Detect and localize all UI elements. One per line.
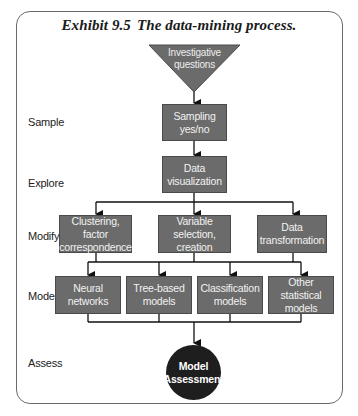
variable-selection-box: Variableselection, creation — [158, 215, 231, 253]
classification-line2: models — [200, 295, 259, 308]
visualization-line2: visualization — [167, 175, 222, 188]
tree-line1: Tree-based — [133, 282, 184, 295]
visualization-line1: Data — [167, 162, 222, 175]
transformation-line1: Data — [260, 221, 324, 234]
tree-based-models-box: Tree-basedmodels — [126, 276, 192, 314]
clustering-line2: correspondence — [59, 241, 132, 254]
start-line2: questions — [149, 59, 240, 71]
other-statistical-models-box: Other statisticalmodels — [268, 276, 334, 314]
variable-line1: Variable — [159, 215, 230, 228]
sampling-line2: yes/no — [173, 123, 215, 136]
clustering-line1: Clustering, factor — [59, 215, 132, 241]
tree-line2: models — [133, 295, 184, 308]
other-line2: models — [269, 302, 333, 315]
assessment-line1: Model — [164, 360, 224, 373]
stage-assess: Assess — [28, 357, 62, 369]
transformation-line2: transformation — [260, 234, 324, 247]
neural-networks-box: Neuralnetworks — [55, 276, 121, 314]
assessment-line2: Assessment — [164, 373, 224, 386]
variable-line2: selection, creation — [159, 228, 230, 254]
stage-model: Model — [28, 290, 57, 302]
sampling-box: Samplingyes/no — [162, 104, 227, 141]
data-transformation-box: Datatransformation — [257, 215, 327, 253]
neural-line1: Neural — [68, 282, 108, 295]
classification-line1: Classification — [200, 282, 259, 295]
sampling-line1: Sampling — [173, 110, 215, 123]
stage-sample: Sample — [28, 116, 64, 128]
start-line1: Investigative — [149, 47, 240, 59]
clustering-box: Clustering, factorcorrespondence — [59, 215, 132, 253]
other-line1: Other statistical — [269, 276, 333, 302]
data-visualization-box: Datavisualization — [162, 156, 227, 193]
stage-explore: Explore — [28, 177, 64, 189]
investigative-questions-label: Investigative questions — [149, 47, 240, 71]
stage-modify: Modify — [28, 230, 59, 242]
classification-models-box: Classificationmodels — [197, 276, 263, 314]
model-assessment-circle: ModelAssessment — [166, 345, 221, 400]
neural-line2: networks — [68, 295, 108, 308]
